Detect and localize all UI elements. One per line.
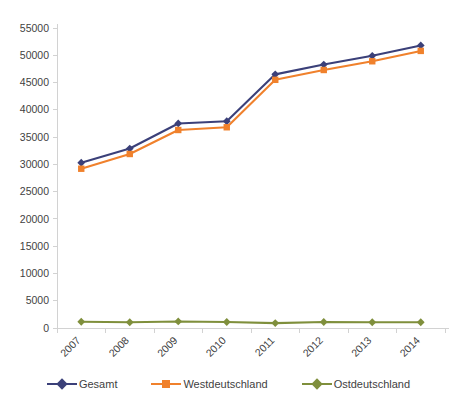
legend-marker-gesamt [47,378,77,390]
x-axis-tick-label: 2014 [397,334,422,359]
legend-item-westdeutschland[interactable]: Westdeutschland [151,378,267,390]
legend-label-westdeutschland: Westdeutschland [183,378,267,390]
data-point-marker [77,159,85,167]
y-axis-tick-label: 15000 [20,240,49,252]
x-axis-tick-label: 2013 [349,334,374,359]
chart-legend: Gesamt Westdeutschland Ostdeutschland [0,378,457,390]
data-point-marker [175,127,181,133]
data-point-marker [78,166,84,172]
chart-plot-area: 0500010000150002000025000300003500040000… [0,0,457,404]
data-point-marker [272,77,278,83]
y-axis-tick-label: 10000 [20,267,49,279]
legend-label-gesamt: Gesamt [79,378,118,390]
y-axis-tick-label: 20000 [20,213,49,225]
square-icon [162,380,170,388]
data-point-marker [368,318,376,326]
legend-marker-ostdeutschland [302,378,332,390]
y-axis-tick-label: 35000 [20,131,49,143]
line-chart: 0500010000150002000025000300003500040000… [0,0,457,404]
legend-item-ostdeutschland[interactable]: Ostdeutschland [302,378,410,390]
y-axis-tick-label: 5000 [26,294,50,306]
data-point-marker [418,48,424,54]
diamond-icon [311,378,322,389]
legend-item-gesamt[interactable]: Gesamt [47,378,118,390]
data-point-marker [224,124,230,130]
data-point-marker [77,318,85,326]
data-point-marker [174,318,182,326]
data-point-marker [223,318,231,326]
y-axis-tick-label: 0 [43,322,49,334]
y-axis-tick-label: 40000 [20,103,49,115]
x-axis-tick-label: 2012 [300,334,325,359]
y-axis-tick-label: 30000 [20,158,49,170]
data-point-marker [127,151,133,157]
x-axis-tick-label: 2007 [58,334,83,359]
data-point-marker [369,58,375,64]
y-axis-tick-label: 55000 [20,22,49,34]
data-point-marker [126,318,134,326]
data-point-marker [417,318,425,326]
legend-label-ostdeutschland: Ostdeutschland [334,378,410,390]
y-axis-tick-label: 50000 [20,49,49,61]
x-axis-tick-label: 2009 [155,334,180,359]
diamond-icon [56,378,67,389]
x-axis-tick-label: 2008 [106,334,131,359]
data-point-marker [320,318,328,326]
x-axis-tick-label: 2011 [252,334,277,359]
data-point-marker [321,67,327,73]
y-axis-tick-label: 45000 [20,76,49,88]
y-axis-tick-label: 25000 [20,185,49,197]
legend-marker-westdeutschland [151,378,181,390]
data-point-marker [271,319,279,327]
x-axis-tick-label: 2010 [203,334,228,359]
data-point-marker [174,120,182,128]
